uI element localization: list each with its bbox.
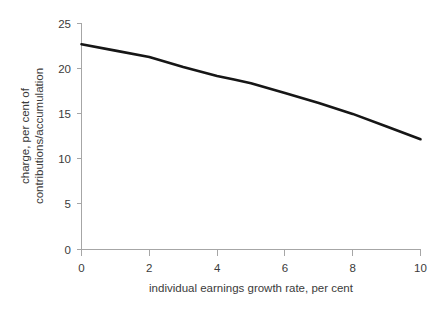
x-tick-label-8: 8 xyxy=(349,262,355,274)
line-chart: 25 20 15 10 5 0 0 2 4 6 8 10 individual … xyxy=(0,0,448,310)
data-line-charge xyxy=(82,44,421,139)
x-tick-label-10: 10 xyxy=(414,262,427,274)
x-tick-label-6: 6 xyxy=(282,262,288,274)
y-tick-label-5: 5 xyxy=(65,198,71,210)
y-tick-label-10: 10 xyxy=(58,153,71,165)
y-axis-title-line2: contributions/accumulation xyxy=(33,68,45,204)
x-tick-label-4: 4 xyxy=(214,262,221,274)
y-tick-label-25: 25 xyxy=(58,18,71,30)
x-tick-label-0: 0 xyxy=(78,262,84,274)
y-tick-label-15: 15 xyxy=(58,108,71,120)
y-axis-title-line1: charge, per cent of xyxy=(19,87,31,184)
chart-figure: 25 20 15 10 5 0 0 2 4 6 8 10 individual … xyxy=(0,0,448,310)
y-tick-label-20: 20 xyxy=(58,63,71,75)
x-tick-label-2: 2 xyxy=(146,262,152,274)
y-tick-label-0: 0 xyxy=(65,244,71,256)
x-axis-title: individual earnings growth rate, per cen… xyxy=(149,282,354,294)
